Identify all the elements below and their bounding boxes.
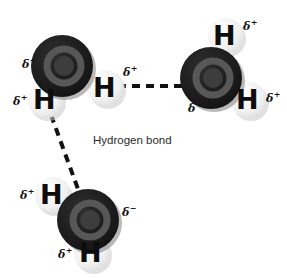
- charge-sign: −: [196, 99, 203, 109]
- delta-symbol: δ: [122, 206, 129, 219]
- charge-sign: +: [274, 89, 281, 99]
- oxygen-core: [54, 56, 74, 76]
- charge-label-hydrogen-top-right-top: δ+: [243, 18, 258, 32]
- charge-label-hydrogen-top-left-lower: δ+: [13, 93, 28, 107]
- charge-sign: +: [21, 92, 28, 102]
- charge-sign: +: [66, 245, 73, 255]
- hydrogen-glyph-top-right-top: H: [213, 22, 235, 49]
- delta-symbol: δ: [123, 66, 130, 79]
- hydrogen-glyph-bottom-left-left: H: [40, 181, 62, 208]
- charge-label-hydrogen-bottom-left-left: δ+: [20, 187, 35, 201]
- charge-sign: −: [30, 55, 37, 65]
- delta-symbol: δ: [22, 58, 29, 71]
- hydrogen-glyph-top-right-right: H: [236, 86, 258, 113]
- hydrogen-bond-caption: Hydrogen bond: [93, 135, 172, 147]
- delta-symbol: δ: [266, 92, 273, 105]
- charge-label-oxygen-top-right: δ−: [188, 100, 203, 114]
- oxygen-core: [203, 68, 223, 88]
- charge-sign: +: [251, 17, 258, 27]
- oxygen-core: [80, 210, 100, 230]
- charge-label-hydrogen-top-right-right: δ+: [266, 90, 281, 104]
- charge-label-hydrogen-top-left-right: δ+: [123, 64, 138, 78]
- delta-symbol: δ: [58, 248, 65, 261]
- charge-label-oxygen-bottom-left: δ−: [122, 204, 137, 218]
- charge-label-hydrogen-bottom-left-bottom: δ+: [58, 246, 73, 260]
- delta-symbol: δ: [243, 20, 250, 33]
- hydrogen-glyph-top-left-lower: H: [33, 86, 55, 113]
- delta-symbol: δ: [20, 189, 27, 202]
- hydrogen-glyph-bottom-left-bottom: H: [79, 239, 101, 266]
- delta-symbol: δ: [188, 102, 195, 115]
- charge-sign: +: [28, 186, 35, 196]
- hydrogen-bond-diagram: H H H H H H δ− δ+ δ+ δ− δ+ δ+ δ− δ+ δ+ H…: [0, 0, 287, 278]
- hydrogen-glyph-top-left-right: H: [93, 74, 115, 101]
- charge-label-oxygen-top-left: δ−: [22, 56, 37, 70]
- delta-symbol: δ: [13, 95, 20, 108]
- charge-sign: −: [130, 203, 137, 213]
- charge-sign: +: [131, 63, 138, 73]
